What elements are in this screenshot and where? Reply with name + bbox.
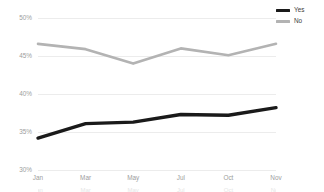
line-chart: 50%45%40%35%30% JanMarMayJulOctNov JanMa…: [0, 0, 324, 192]
legend: Yes No: [276, 6, 320, 28]
clipped-label: Mar: [80, 187, 90, 192]
clipped-label: Jul: [177, 187, 185, 192]
series-paths: [38, 44, 276, 138]
clipped-label: May: [128, 187, 139, 192]
series-line-no: [38, 44, 276, 64]
series-layer: [0, 0, 324, 192]
legend-swatch-no: [276, 20, 290, 23]
clipped-label: Oct: [224, 187, 233, 192]
x-axis-tick-label: May: [127, 175, 139, 181]
legend-swatch-yes: [276, 9, 290, 12]
legend-item-no[interactable]: No: [276, 17, 320, 26]
x-axis-tick-label: Oct: [223, 175, 233, 181]
clipped-label: Nov: [271, 187, 276, 192]
x-axis-tick-label: Jan: [33, 175, 43, 181]
legend-label-yes: Yes: [294, 7, 304, 13]
x-axis-tick-label: Mar: [80, 175, 91, 181]
x-axis-tick-label: Jul: [177, 175, 185, 181]
x-axis-tick-label: Nov: [270, 175, 281, 181]
series-line-yes: [38, 108, 276, 138]
x-axis-labels: JanMarMayJulOctNov: [38, 175, 276, 187]
clipped-label: Jan: [38, 187, 43, 192]
legend-label-no: No: [294, 18, 302, 24]
legend-item-yes[interactable]: Yes: [276, 6, 320, 15]
clipped-footer-row: JanMarMayJulOctNov: [38, 187, 276, 192]
